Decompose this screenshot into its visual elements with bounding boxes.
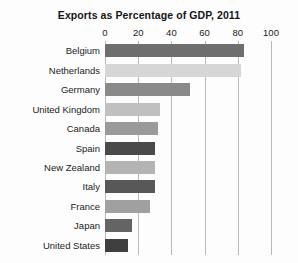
plot-area — [105, 41, 271, 255]
bar-series — [105, 41, 271, 255]
x-tick-label: 60 — [199, 27, 210, 38]
y-axis-category-labels: BelgiumNetherlandsGermanyUnited KingdomC… — [0, 41, 100, 255]
category-label: Germany — [0, 84, 100, 95]
category-label: Italy — [0, 181, 100, 192]
x-tick-label: 40 — [166, 27, 177, 38]
bar — [105, 219, 132, 232]
x-tick-label: 100 — [263, 27, 279, 38]
category-label: Belgium — [0, 45, 100, 56]
category-label: France — [0, 201, 100, 212]
category-label: Canada — [0, 123, 100, 134]
bar — [105, 161, 155, 174]
bar — [105, 239, 128, 252]
bar — [105, 142, 155, 155]
bar — [105, 64, 241, 77]
bar — [105, 180, 155, 193]
x-axis-tick-labels: 020406080100 — [0, 27, 298, 41]
category-label: Japan — [0, 220, 100, 231]
bar — [105, 200, 150, 213]
bar — [105, 122, 158, 135]
category-label: Netherlands — [0, 65, 100, 76]
gridline — [271, 41, 272, 255]
category-label: New Zealand — [0, 162, 100, 173]
chart-title: Exports as Percentage of GDP, 2011 — [0, 9, 298, 21]
bar — [105, 103, 160, 116]
x-tick-label: 20 — [133, 27, 144, 38]
category-label: Spain — [0, 143, 100, 154]
x-tick-label: 80 — [233, 27, 244, 38]
chart-figure: Exports as Percentage of GDP, 2011 02040… — [0, 0, 298, 263]
category-label: United States — [0, 240, 100, 251]
bar — [105, 44, 244, 57]
x-tick-label: 0 — [102, 27, 107, 38]
category-label: United Kingdom — [0, 104, 100, 115]
bar — [105, 83, 190, 96]
